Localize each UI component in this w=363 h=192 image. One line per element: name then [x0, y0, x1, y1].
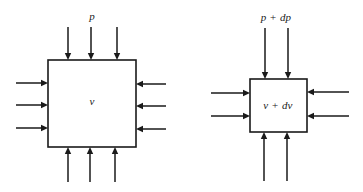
left-left-arrow-2-head [41, 102, 48, 108]
right-bottom-arrow-1-head [261, 132, 267, 139]
right-left-arrow-2-head [243, 113, 250, 119]
left-top-arrow-2-head [88, 53, 94, 60]
left-left-arrow-3-head [41, 125, 48, 131]
right-volume-label: v + dv [263, 100, 292, 111]
left-bottom-arrow-1-head [65, 147, 71, 154]
left-left-arrow-1-head [41, 80, 48, 86]
right-top-arrow-1-head [262, 72, 268, 79]
right-top-arrow-2-head [285, 72, 291, 79]
right-right-arrow-1-head [307, 89, 314, 95]
diagram-canvas [0, 0, 363, 192]
left-top-arrow-1-head [65, 53, 71, 60]
right-bottom-arrow-2-head [284, 132, 290, 139]
left-right-arrow-1-head [136, 81, 143, 87]
left-bottom-arrow-3-head [112, 147, 118, 154]
right-pressure-label: p + dp [261, 12, 292, 23]
left-right-arrow-3-head [136, 126, 143, 132]
left-volume-label: v [89, 96, 94, 107]
left-bottom-arrow-2-head [87, 147, 93, 154]
figure-root: p v p + dp v + dv [0, 0, 363, 192]
right-left-arrow-1-head [243, 90, 250, 96]
left-right-arrow-2-head [136, 103, 143, 109]
right-right-arrow-2-head [307, 113, 314, 119]
left-top-arrow-3-head [114, 53, 120, 60]
left-pressure-label: p [89, 11, 95, 22]
